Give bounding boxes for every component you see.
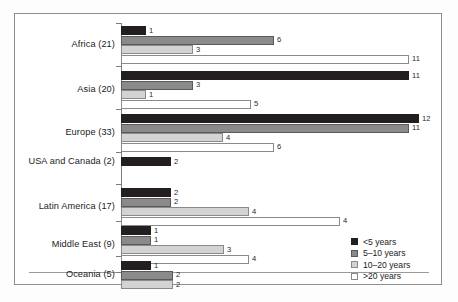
legend-item: 5–10 years <box>351 248 437 260</box>
bar <box>121 133 223 142</box>
bar-value-label: 2 <box>174 189 178 197</box>
legend-item: >20 years <box>351 271 437 283</box>
legend-label: >20 years <box>363 271 401 281</box>
bar-value-label: 4 <box>252 208 256 216</box>
bar-value-label: 1 <box>149 27 153 35</box>
bar-value-label: 6 <box>277 143 281 151</box>
bar-value-label: 1 <box>149 91 153 99</box>
bar-value-label: 5 <box>254 100 258 108</box>
axis-tick-0 <box>116 23 122 24</box>
axis-tick-1 <box>116 66 122 67</box>
bar <box>121 188 171 197</box>
bar-value-label: 4 <box>343 217 347 225</box>
bar <box>121 236 151 245</box>
legend-swatch-icon <box>351 273 358 280</box>
bar-value-label: 1 <box>154 227 158 235</box>
category-label: USA and Canada (2) <box>15 156 115 166</box>
legend-label: 5–10 years <box>363 248 406 258</box>
chart-figure: Africa (21)Asia (20)Europe (33)USA and C… <box>0 0 458 302</box>
axis-tick-2 <box>116 109 122 110</box>
bar <box>121 245 224 254</box>
bar-value-label: 11 <box>412 55 420 63</box>
bar <box>121 207 249 216</box>
bar-value-label: 1 <box>154 262 158 270</box>
bar-value-label: 1 <box>154 236 158 244</box>
legend-swatch-icon <box>351 238 358 245</box>
bar <box>121 217 340 226</box>
figure-border: Africa (21)Asia (20)Europe (33)USA and C… <box>14 13 442 285</box>
bar <box>121 280 173 289</box>
bar <box>121 36 274 45</box>
bar-value-label: 6 <box>277 36 281 44</box>
bar-value-label: 11 <box>412 72 420 80</box>
bar <box>121 226 151 235</box>
bar-value-label: 3 <box>196 46 200 54</box>
category-label: Oceania (5) <box>15 269 115 279</box>
bar <box>121 124 409 133</box>
legend-item: 10–20 years <box>351 259 437 271</box>
category-label: Latin America (17) <box>15 201 115 211</box>
category-label: Europe (33) <box>15 127 115 137</box>
category-label: Africa (21) <box>15 39 115 49</box>
bar <box>121 55 409 64</box>
bar <box>121 143 274 152</box>
axis-tick-4 <box>116 184 122 185</box>
bar-value-label: 4 <box>226 134 230 142</box>
bar <box>121 157 171 166</box>
bar-value-label: 3 <box>227 246 231 254</box>
legend-swatch-icon <box>351 261 358 268</box>
bar <box>121 81 193 90</box>
bar <box>121 198 171 207</box>
bar <box>121 114 419 123</box>
bar <box>121 261 151 270</box>
bar-value-label: 12 <box>422 115 430 123</box>
category-label: Middle East (9) <box>15 239 115 249</box>
bar <box>121 71 409 80</box>
legend-label: 10–20 years <box>363 260 410 270</box>
bar <box>121 100 251 109</box>
legend: <5 years5–10 years10–20 years>20 years <box>351 236 437 282</box>
bar-value-label: 11 <box>412 124 420 132</box>
bar-value-label: 4 <box>252 255 256 263</box>
bar <box>121 271 173 280</box>
legend-label: <5 years <box>363 237 396 247</box>
bar <box>121 26 146 35</box>
bar-value-label: 2 <box>176 281 180 289</box>
legend-item: <5 years <box>351 236 437 248</box>
bar <box>121 90 146 99</box>
plot-area: Africa (21)Asia (20)Europe (33)USA and C… <box>15 14 443 286</box>
legend-swatch-icon <box>351 250 358 257</box>
bar-value-label: 3 <box>196 81 200 89</box>
axis-tick-3 <box>116 152 122 153</box>
bar <box>121 45 193 54</box>
bar-value-label: 2 <box>176 271 180 279</box>
category-label: Asia (20) <box>15 84 115 94</box>
bar-value-label: 2 <box>174 198 178 206</box>
bar-value-label: 2 <box>174 158 178 166</box>
